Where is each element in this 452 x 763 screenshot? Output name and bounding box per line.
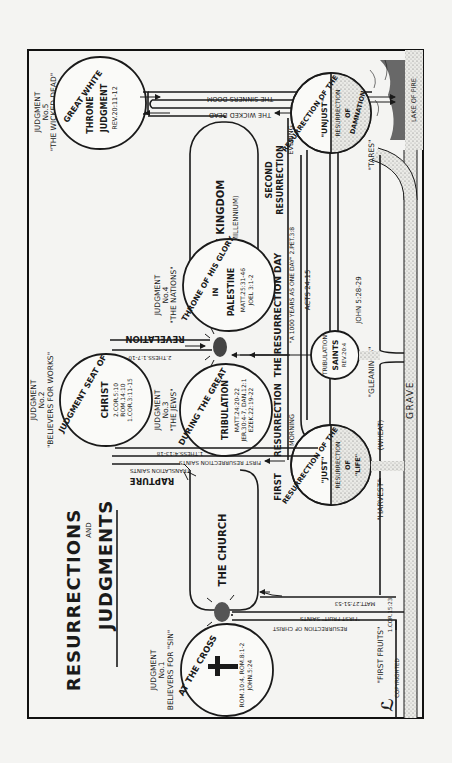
grave-label: GRAVE — [405, 381, 415, 419]
page-title: RESURRECTIONS AND JUDGMENTS — [63, 500, 117, 691]
thess-1-ref: 2.THESS.1:7-10 — [128, 355, 171, 361]
revelation-label: REVELATION — [125, 334, 184, 344]
resurrections-judgments-diagram: GRAVE LAKE OF FIRE JUDGMENT No.5 "THE WI… — [0, 0, 452, 763]
svg-text:ROM.10:4, ROM.8:1-2: ROM.10:4, ROM.8:1-2 — [238, 642, 245, 707]
svg-text:SAINTS: SAINTS — [331, 340, 340, 371]
great-tribulation-circle: DURING THE GREAT TRIBULATION MATT.24:20-… — [177, 364, 272, 456]
first-resurrection-saints-label: FIRST RESURRECTION SAINTS — [178, 460, 261, 466]
svg-text:CHRIST: CHRIST — [100, 381, 110, 419]
throne-of-glory-circle: THRONE OF HIS GLORY IN PALESTINE MATT.25… — [180, 234, 275, 331]
great-white-throne-circle: GREAT WHITE THRONE JUDGMENT REV.20:11-12 — [54, 57, 148, 149]
svg-text:2.COR.5:10: 2.COR.5:10 — [112, 383, 119, 417]
svg-text:BELIEVERS FOR "SIN": BELIEVERS FOR "SIN" — [166, 630, 175, 711]
resurrection-of-christ-label: RESURRECTION OF CHRIST — [272, 626, 347, 632]
rapture-label: RAPTURE — [130, 476, 175, 486]
second-resurrection-labels: SECOND RESURRECTION EVENING — [265, 125, 295, 214]
svg-text:"UNJUST": "UNJUST" — [320, 98, 329, 138]
wheat-label: (WHEAT) — [377, 419, 385, 450]
at-the-cross-circle: AT THE CROSS ROM.10:4, ROM.8:1-2 JOHN.5:… — [176, 624, 273, 716]
svg-text:THE RESURRECTION DAY: THE RESURRECTION DAY — [273, 252, 283, 377]
millennium-label: (MILLENNIUM) — [232, 195, 240, 245]
rising-sun-icon — [205, 328, 227, 366]
svg-text:JUDGMENT: JUDGMENT — [100, 83, 109, 133]
svg-text:IN: IN — [211, 287, 220, 296]
translation-saints-label: TRANSLATION SAINTS — [130, 468, 191, 474]
svg-text:ACTS 24:15: ACTS 24:15 — [304, 270, 312, 311]
judgment-4-heading: JUDGMENT No.4 "THE NATIONS" — [153, 266, 178, 323]
lake-of-fire-label: LAKE OF FIRE — [410, 78, 418, 122]
title-line-3: JUDGMENTS — [95, 500, 116, 633]
svg-text:"LIFE": "LIFE" — [354, 454, 362, 476]
svg-text:TRIBULATION: TRIBULATION — [321, 335, 328, 376]
judgment-seat-circle: JUDGMENT SEAT OF CHRIST 2.COR.5:10 ROM.1… — [56, 353, 152, 446]
copyright-monogram-icon: ℒ — [378, 698, 397, 712]
svg-text:FIRST: FIRST — [273, 473, 283, 501]
svg-text:"A 1000 YEARS AS ONE DAY" 2.PE: "A 1000 YEARS AS ONE DAY" 2.PET.3:8 — [288, 227, 295, 343]
svg-text:RESURRECTION: RESURRECTION — [334, 89, 341, 136]
fire-icon — [380, 60, 405, 140]
svg-text:TRIBULATION: TRIBULATION — [221, 380, 230, 440]
svg-text:SECOND: SECOND — [265, 161, 274, 199]
svg-text:REV.20:11-12: REV.20:11-12 — [111, 86, 119, 130]
svg-text:OF: OF — [344, 460, 352, 470]
svg-text:MATT.25:31-46: MATT.25:31-46 — [239, 268, 246, 313]
judgment-1-heading: JUDGMENT No.1 BELIEVERS FOR "SIN" — [149, 630, 175, 711]
svg-text:"JUST": "JUST" — [320, 456, 329, 483]
svg-text:1.COR.3:11-15: 1.COR.3:11-15 — [126, 378, 133, 422]
harvest-labels: "HARVEST" "FIRST FRUITS" 1.COR.15:23 — [376, 478, 393, 683]
sinners-doom-label: THE SINNERS DOOM — [207, 95, 274, 103]
svg-text:RESURRECTION: RESURRECTION — [334, 441, 341, 488]
wicked-dead-label: THE WICKED DEAD — [209, 111, 272, 119]
svg-text:"THE JEWS": "THE JEWS" — [169, 388, 178, 431]
first-fruits-label: "FIRST FRUITS" — [376, 627, 385, 684]
svg-text:THRONE: THRONE — [86, 96, 95, 133]
svg-text:JOHN 5:28-29: JOHN 5:28-29 — [355, 276, 363, 324]
svg-text:"BELIEVERS FOR WORKS": "BELIEVERS FOR WORKS" — [46, 352, 55, 448]
svg-text:PALESTINE: PALESTINE — [227, 268, 236, 316]
svg-text:JOEL 3:1-2: JOEL 3:1-2 — [247, 274, 255, 306]
first-fruits-ref: 1.COR.15:23 — [387, 597, 393, 632]
judgment-2-heading: JUDGMENT No.2 "BELIEVERS FOR WORKS" — [29, 352, 55, 448]
title-line-1: RESURRECTIONS — [63, 509, 84, 691]
svg-text:REV.20:4: REV.20:4 — [341, 342, 347, 367]
the-church-label: THE CHURCH — [217, 514, 228, 587]
title-line-2: AND — [85, 522, 93, 537]
svg-text:EZEK.22:19-22: EZEK.22:19-22 — [247, 388, 254, 433]
svg-text:MORNING: MORNING — [288, 414, 296, 446]
revelation-lanes: REVELATION 2.THESS.1:7-10 — [110, 334, 288, 361]
judgment-3-heading: JUDGMENT No.3 "THE JEWS" — [153, 388, 178, 431]
svg-text:JOHN.5:24: JOHN.5:24 — [246, 659, 254, 691]
copyrighted-label: COPYRIGHTED — [394, 658, 400, 698]
svg-text:OF: OF — [344, 108, 352, 118]
svg-text:No.1: No.1 — [157, 661, 166, 678]
matt-27-ref: MATT.27:51-53 — [334, 601, 375, 607]
svg-text:RESURRECTION: RESURRECTION — [276, 145, 285, 214]
first-fruit-saints-label: "FIRST FRUIT" SAINTS — [300, 616, 360, 622]
svg-text:"THE NATIONS": "THE NATIONS" — [169, 266, 178, 323]
tares-label: "TARES" — [367, 140, 376, 171]
the-church-box: THE CHURCH — [190, 470, 258, 610]
svg-text:No.2: No.2 — [37, 391, 46, 408]
svg-text:MATT.24:20-22: MATT.24:20-22 — [233, 388, 240, 433]
svg-text:RESURRECTION: RESURRECTION — [273, 383, 283, 457]
resurrection-just-circle: RESURRECTION OF THE "JUST" RESURRECTION … — [281, 425, 404, 506]
thess-4-ref: 1.THESS.4:13-18 — [156, 451, 203, 457]
svg-text:ROM.14:10: ROM.14:10 — [119, 383, 126, 416]
